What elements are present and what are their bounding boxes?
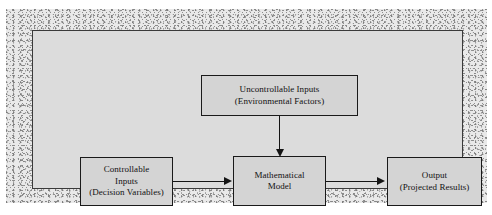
- arrow-model-to-output-line: [326, 181, 378, 182]
- arrow-uncontrollable-to-model-line: [279, 116, 280, 150]
- node-output[interactable]: Output (Projected Results): [387, 157, 482, 206]
- node-mathematical-model-line1: Mathematical: [254, 170, 304, 182]
- node-output-line2: (Projected Results): [400, 182, 470, 194]
- node-controllable-inputs-line3: (Decision Variables): [89, 187, 164, 199]
- node-uncontrollable-inputs-line2: (Environmental Factors): [235, 96, 324, 108]
- node-controllable-inputs-line2: Inputs: [115, 176, 138, 188]
- scanned-page: Uncontrollable Inputs (Environmental Fac…: [0, 0, 492, 215]
- arrow-controllable-to-model-line: [173, 181, 225, 182]
- arrow-controllable-to-model-head-icon: [224, 177, 232, 185]
- node-uncontrollable-inputs-line1: Uncontrollable Inputs: [240, 84, 320, 96]
- node-controllable-inputs-line1: Controllable: [104, 164, 150, 176]
- node-mathematical-model[interactable]: Mathematical Model: [233, 156, 326, 206]
- arrow-uncontrollable-to-model-head-icon: [276, 149, 284, 157]
- arrow-model-to-output-head-icon: [377, 177, 385, 185]
- node-output-line1: Output: [422, 170, 447, 182]
- node-uncontrollable-inputs[interactable]: Uncontrollable Inputs (Environmental Fac…: [201, 75, 358, 116]
- node-mathematical-model-line2: Model: [268, 181, 292, 193]
- node-controllable-inputs[interactable]: Controllable Inputs (Decision Variables): [80, 157, 173, 206]
- diagram-panel: Uncontrollable Inputs (Environmental Fac…: [32, 30, 463, 189]
